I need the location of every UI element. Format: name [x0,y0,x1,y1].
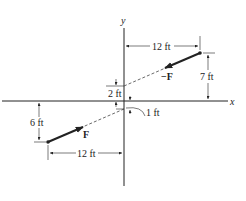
dim-lower-offset [116,102,145,116]
force-arrow-negative-F [165,53,200,68]
x-axis-label: x [229,96,235,107]
force-label-F: F [83,129,89,140]
force-label-negative-F: −F [161,71,173,82]
y-axis-label: y [120,15,126,26]
force-arrow-F [48,127,83,142]
dim-lower-offset-label: 1 ft [146,107,160,118]
dim-top-label: 12 ft [152,41,171,52]
dim-upper-offset-label: 2 ft [108,88,122,99]
force-F [46,127,83,144]
couple-diagram: x y −F F 12 ft 7 ft 2 ft 1 ft [0,0,246,201]
force-negative-F [165,51,202,68]
dim-left-label: 6 ft [30,117,44,128]
dim-bottom-label: 12 ft [77,148,96,159]
axes [2,28,228,186]
dim-right-label: 7 ft [200,71,214,82]
